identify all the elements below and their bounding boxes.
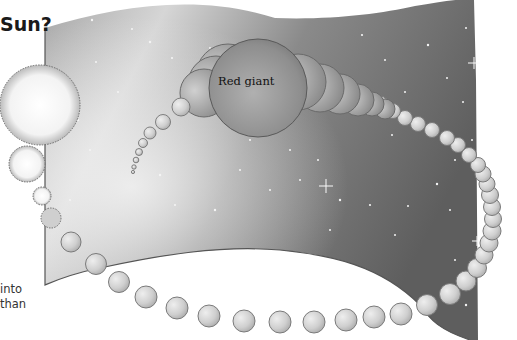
red-giant-star xyxy=(209,39,307,137)
red-giant-label: Red giant xyxy=(218,74,274,88)
caption-line-2: than xyxy=(0,297,26,311)
caption-line-1: into xyxy=(0,282,22,296)
page-heading: Sun? xyxy=(0,13,52,35)
sun-life-cycle-diagram xyxy=(0,0,517,340)
illustration: Sun? Red giant into than xyxy=(0,0,517,340)
